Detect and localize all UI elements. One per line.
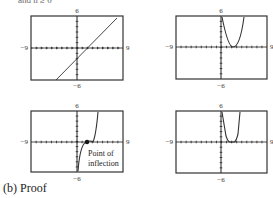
- graph-panel-2: 6 −6 −9 9: [166, 7, 273, 90]
- ymin-label: −6: [73, 82, 81, 90]
- ymin-label: −6: [217, 82, 225, 90]
- ymin-label: −6: [217, 176, 225, 184]
- xmax-label: 9: [270, 43, 273, 51]
- graph-panel-1: 6 −6 −9 9: [21, 7, 130, 90]
- ymax-label: 6: [75, 102, 79, 110]
- xmin-label: −9: [166, 138, 174, 146]
- graphs-figure: 6 −6 −9 9 6 −6 −9 9 Point of inflection …: [0, 0, 273, 198]
- xmax-label: 9: [126, 138, 130, 146]
- axis-ticks: [36, 21, 262, 168]
- xmax-label: 9: [126, 44, 130, 52]
- xmax-label: 9: [270, 138, 273, 146]
- ymax-label: 6: [219, 7, 223, 15]
- caption: (b) Proof: [3, 181, 47, 196]
- annotation-line1: Point of: [88, 149, 114, 158]
- ymax-label: 6: [75, 7, 79, 15]
- ymin-label: −6: [73, 175, 81, 183]
- xmin-label: −9: [21, 44, 29, 52]
- graph-panel-3: Point of inflection 6 −6 −9 9: [21, 102, 130, 183]
- xmin-label: −9: [21, 138, 29, 146]
- ymax-label: 6: [219, 102, 223, 110]
- xmin-label: −9: [166, 43, 174, 51]
- annotation-line2: inflection: [88, 159, 119, 168]
